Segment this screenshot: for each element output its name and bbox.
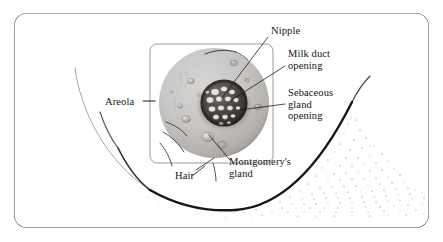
- label-hair: Hair: [175, 170, 194, 182]
- label-nipple: Nipple: [271, 25, 300, 37]
- label-montgomerys-gland: Montgomery's gland: [229, 156, 291, 179]
- breast-anatomy-illustration: [0, 0, 443, 242]
- figure-panel: Nipple Milk duct opening Sebaceous gland…: [0, 0, 443, 242]
- label-sebaceous-gland-opening: Sebaceous gland opening: [288, 87, 333, 122]
- label-areola: Areola: [105, 96, 134, 108]
- label-milk-duct-opening: Milk duct opening: [288, 48, 330, 71]
